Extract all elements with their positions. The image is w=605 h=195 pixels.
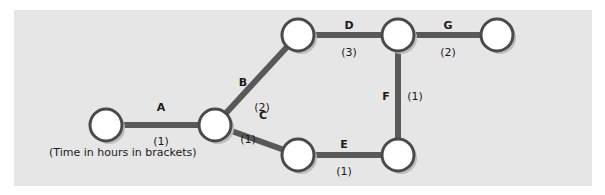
edge-g-duration: (2) (440, 46, 456, 59)
edge-c-label: C (259, 109, 267, 122)
legend-note: (Time in hours in brackets) (49, 146, 197, 159)
node-6 (282, 139, 314, 171)
node-1 (90, 109, 122, 141)
edge-d-label: D (344, 19, 353, 32)
node-3 (282, 19, 314, 51)
edge-c-duration: (1) (240, 133, 256, 146)
edge-f-label: F (382, 90, 390, 103)
edge-d-duration: (3) (341, 46, 357, 59)
edge-e-label: E (340, 138, 348, 151)
edge-b-label: B (239, 76, 247, 89)
node-7 (382, 139, 414, 171)
edge-g-label: G (443, 19, 452, 32)
edge-e-duration: (1) (336, 165, 352, 178)
edge-f-duration: (1) (407, 90, 423, 103)
edge-a-label: A (157, 101, 166, 114)
node-2 (199, 109, 231, 141)
node-5 (481, 19, 513, 51)
node-4 (382, 19, 414, 51)
network-diagram: A (1) B (2) C (1) D (3) E (1) F (1) G (2… (0, 0, 605, 195)
